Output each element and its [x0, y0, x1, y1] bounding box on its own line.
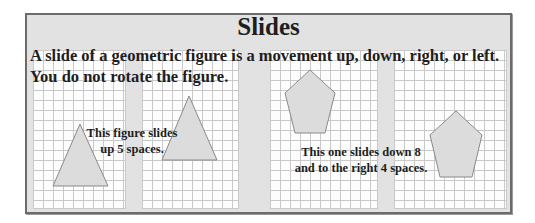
pentagon-original: [285, 70, 335, 133]
triangle-caption-line-2: up 5 spaces.: [72, 141, 192, 157]
triangle-caption-line-1: This figure slides: [72, 125, 192, 141]
figures-layer: [0, 0, 535, 223]
pentagon-caption-line-1: This one slides down 8: [281, 144, 441, 160]
pentagon-caption-line-2: and to the right 4 spaces.: [281, 160, 441, 176]
triangle-caption: This figure slides up 5 spaces.: [72, 125, 192, 157]
pentagon-caption: This one slides down 8 and to the right …: [281, 144, 441, 176]
